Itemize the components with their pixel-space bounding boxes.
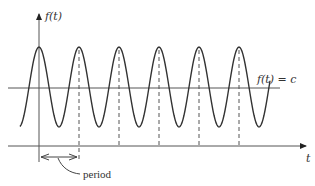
- period-label: period: [83, 168, 112, 180]
- period-leader: [58, 158, 80, 174]
- periodic-wave: [20, 47, 270, 127]
- periodic-function-diagram: f(t) t f(t) = c period: [0, 0, 315, 186]
- level-label: f(t) = c: [256, 73, 296, 86]
- peak-dashed-lines: [79, 50, 239, 160]
- y-axis-label: f(t): [44, 10, 62, 23]
- x-axis-label: t: [306, 152, 311, 165]
